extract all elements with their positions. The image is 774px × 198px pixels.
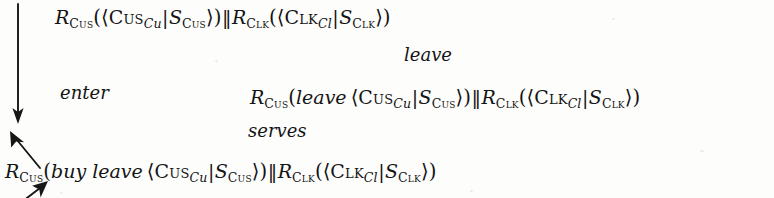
agent-clk-subscript: Cl: [364, 170, 378, 185]
config-bar: |: [411, 86, 418, 108]
close-paren-2: ): [633, 86, 641, 109]
parallel-operator: ‖: [221, 6, 232, 28]
store-S-clk: S: [385, 160, 398, 182]
open-paren-2: (: [269, 6, 277, 29]
serves-arrow-svg: [0, 176, 56, 198]
agent-cus: Cus: [109, 6, 144, 28]
transition-label-enter: enter: [60, 84, 109, 102]
store-S-cus: S: [215, 160, 228, 182]
store-S-cus-subscript: Cus: [182, 16, 206, 31]
store-S-clk-subscript: Clk: [352, 16, 375, 31]
operator-R-cus-subscript: Cus: [69, 16, 93, 31]
leave-arrow-svg: [0, 128, 50, 176]
expression-middle: RCus(leave⟨CusCu|SCus⟩)‖RClk(⟨ClkCl|SClk…: [250, 88, 640, 108]
open-angle-2: ⟨: [277, 6, 285, 29]
store-S-clk-subscript: Clk: [602, 96, 625, 111]
transition-label-leave: leave: [404, 46, 452, 64]
config-bar-2: |: [581, 86, 588, 108]
store-S-cus: S: [169, 6, 182, 28]
scan-speckle: [470, 190, 473, 192]
open-angle-2: ⟨: [526, 86, 534, 109]
transition-arrow-enter: [0, 0, 40, 128]
store-S-cus-subscript: Cus: [432, 96, 456, 111]
store-S-clk: S: [339, 6, 352, 28]
scan-speckle: [60, 192, 63, 194]
store-S-cus: S: [419, 86, 432, 108]
store-S-clk: S: [589, 86, 602, 108]
agent-clk-subscript: Cl: [318, 16, 332, 31]
open-paren-2: (: [315, 160, 323, 183]
operator-R-clk: R: [232, 6, 246, 28]
close-paren-2: ): [429, 160, 437, 183]
expression-top: RCus(⟨CusCu|SCus⟩)‖RClk(⟨ClkCl|SClk⟩): [55, 8, 391, 28]
operator-R-cus: R: [250, 86, 264, 108]
config-bar-2: |: [378, 160, 385, 182]
close-angle: ⟩: [206, 6, 214, 29]
scan-speckle: [700, 150, 704, 152]
config-bar: |: [162, 6, 169, 28]
agent-cus: Cus: [155, 160, 190, 182]
expression-bottom: RCus(buy leave⟨CusCu|SCus⟩)‖RClk(⟨ClkCl|…: [5, 162, 436, 182]
store-S-cus-subscript: Cus: [228, 170, 252, 185]
agent-cus-subscript: Cu: [144, 16, 162, 31]
parallel-operator: ‖: [267, 160, 278, 182]
agent-cus: Cus: [358, 86, 393, 108]
operator-R-clk: R: [278, 160, 292, 182]
open-angle: ⟨: [147, 160, 155, 183]
agent-clk: Clk: [285, 6, 318, 28]
open-angle: ⟨: [101, 6, 109, 29]
agent-clk: Clk: [534, 86, 567, 108]
enter-arrow-svg: [0, 0, 40, 128]
close-paren-2: ): [383, 6, 391, 29]
close-angle-2: ⟩: [375, 6, 383, 29]
action-prefix: leave: [296, 86, 347, 108]
transition-arrow-leave: [0, 128, 50, 176]
close-angle-2: ⟩: [625, 86, 633, 109]
diagram-canvas: RCus(⟨CusCu|SCus⟩)‖RClk(⟨ClkCl|SClk⟩) RC…: [0, 0, 774, 198]
operator-R-clk: R: [482, 86, 496, 108]
store-S-clk-subscript: Clk: [398, 170, 421, 185]
transition-arrow-serves: [0, 176, 56, 198]
agent-cus-subscript: Cu: [190, 170, 208, 185]
operator-R-clk-subscript: Clk: [496, 96, 519, 111]
serves-arrow-head: [32, 181, 48, 197]
leave-arrow-shaft: [17, 140, 40, 168]
close-angle-2: ⟩: [421, 160, 429, 183]
scan-speckle: [612, 18, 615, 20]
operator-R-cus: R: [55, 6, 69, 28]
agent-clk-subscript: Cl: [568, 96, 582, 111]
action-prefix: buy leave: [51, 160, 143, 182]
operator-R-clk-subscript: Clk: [246, 16, 269, 31]
agent-clk: Clk: [330, 160, 363, 182]
agent-cus-subscript: Cu: [393, 96, 411, 111]
config-bar: |: [207, 160, 214, 182]
scan-speckle: [215, 60, 218, 62]
open-paren: (: [288, 86, 296, 109]
operator-R-cus-subscript: Cus: [264, 96, 288, 111]
parallel-operator: ‖: [471, 86, 482, 108]
close-paren: ): [463, 86, 471, 109]
transition-label-serves: serves: [248, 122, 307, 140]
operator-R-clk-subscript: Clk: [292, 170, 315, 185]
open-paren: (: [93, 6, 101, 29]
serves-arrow-shaft: [6, 188, 40, 198]
